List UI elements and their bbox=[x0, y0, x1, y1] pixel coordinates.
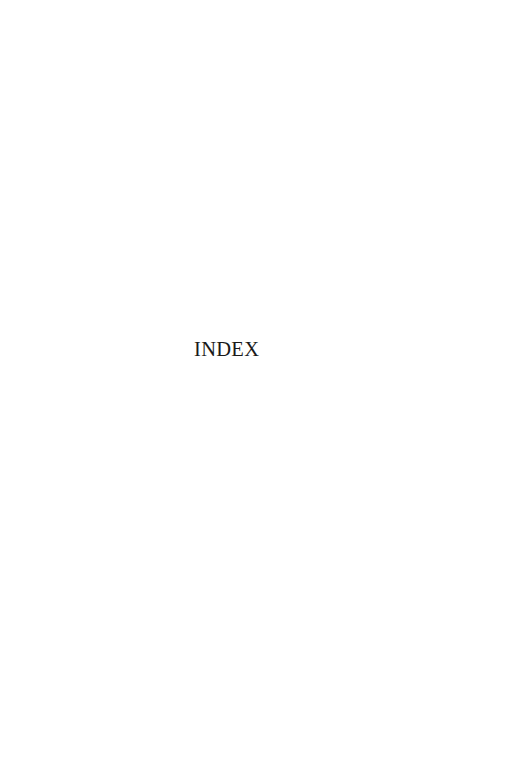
document-page: INDEX bbox=[0, 0, 509, 773]
page-title: INDEX bbox=[194, 337, 259, 361]
